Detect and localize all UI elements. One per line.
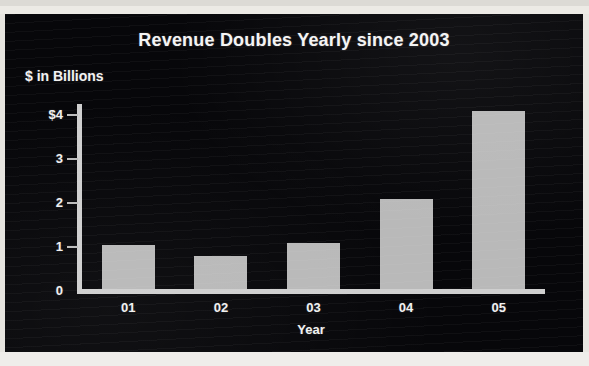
- x-axis-label: Year: [77, 322, 545, 337]
- y-axis-tick: [67, 114, 78, 116]
- y-axis-tick: [67, 158, 78, 160]
- chart-panel: Revenue Doubles Yearly since 2003 $ in B…: [5, 14, 583, 352]
- x-axis-category-label: 01: [98, 300, 158, 315]
- y-axis-tick: [67, 246, 78, 248]
- y-axis-tick-label: 3: [5, 151, 63, 165]
- bar-02[interactable]: [194, 256, 247, 289]
- screenshot-root: Revenue Doubles Yearly since 2003 $ in B…: [0, 0, 589, 366]
- y-axis-tick-label: 2: [5, 195, 63, 209]
- x-axis-category-label: 02: [191, 300, 251, 315]
- x-axis-category-label: 04: [376, 300, 436, 315]
- y-axis-tick: [67, 202, 78, 204]
- x-axis-category-label: 03: [284, 300, 344, 315]
- y-axis-tick-label-text: 0: [17, 283, 63, 298]
- plot-area: $432100102030405: [5, 14, 583, 352]
- y-axis-tick-label-text: $4: [17, 107, 63, 122]
- bar-04[interactable]: [380, 199, 433, 289]
- scan-margin-bottom: [0, 352, 589, 366]
- scan-margin-right: [583, 14, 589, 352]
- bar-05[interactable]: [472, 111, 525, 289]
- scan-margin-top-shade: [0, 0, 589, 6]
- bar-01[interactable]: [102, 245, 155, 289]
- y-axis-tick-label-text: 1: [17, 239, 63, 254]
- y-axis-tick-label: 0: [5, 283, 63, 297]
- y-axis-tick-label-text: 3: [17, 151, 63, 166]
- x-axis-line: [77, 289, 545, 294]
- y-axis-tick-label: 1: [5, 239, 63, 253]
- y-axis-tick-label-text: 2: [17, 195, 63, 210]
- x-axis-category-label: 05: [469, 300, 529, 315]
- y-axis-tick-label: $4: [5, 107, 63, 121]
- bar-03[interactable]: [287, 243, 340, 289]
- y-axis-line: [77, 104, 82, 294]
